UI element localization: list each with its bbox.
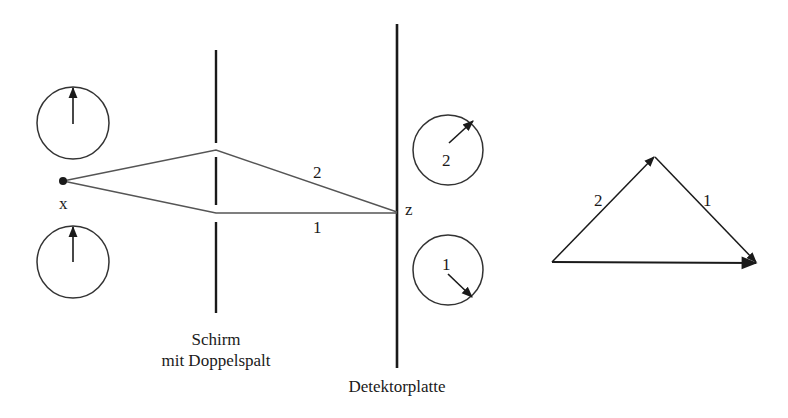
- double-slit-diagram: x 2 1 z 2 1 2 1 Schirm mit Doppelspalt D…: [0, 0, 788, 418]
- clock-path-2-label: 2: [442, 151, 451, 170]
- resultant-vector-arrow: [552, 262, 756, 263]
- clock-path-1-label: 1: [442, 255, 451, 274]
- source-label: x: [59, 194, 68, 213]
- path-2-label: 2: [313, 163, 322, 182]
- path-1-label: 1: [313, 218, 322, 237]
- target-point-label: z: [405, 200, 413, 219]
- vector-2-arrow: [552, 157, 654, 262]
- path-1-ray: [63, 181, 397, 213]
- screen-label-line2: mit Doppelspalt: [161, 351, 270, 370]
- clock-bottom-icon: [37, 226, 109, 298]
- path-2-ray: [63, 150, 397, 212]
- clock-path-1-icon: 1: [413, 235, 483, 305]
- vector-2-label: 2: [594, 191, 603, 210]
- clock-top-icon: [37, 87, 109, 159]
- vector-sum-triangle: 2 1: [552, 157, 756, 263]
- clock-path-2-icon: 2: [413, 115, 483, 185]
- screen-label-line1: Schirm: [191, 330, 240, 349]
- vector-1-label: 1: [703, 191, 712, 210]
- source-point: [59, 177, 67, 185]
- detector-label: Detektorplatte: [348, 377, 445, 396]
